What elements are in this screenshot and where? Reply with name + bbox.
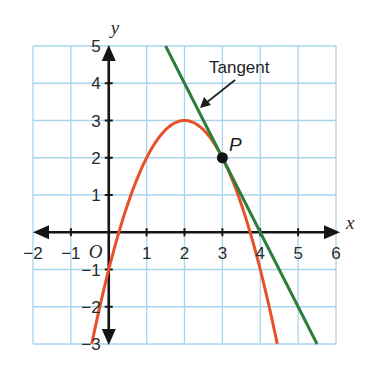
x-tick-label: −1 (61, 244, 80, 263)
y-axis-arrow-up (102, 45, 116, 61)
y-axis-arrow-down (102, 329, 116, 345)
y-tick-label: 2 (91, 149, 100, 168)
chart: −2−1123456−3−2−112345xyO Tangent P (0, 0, 375, 369)
origin-label: O (89, 241, 103, 262)
x-tick-label: 3 (218, 244, 227, 263)
x-tick-label: 1 (142, 244, 151, 263)
x-axis-label: x (345, 212, 355, 233)
x-tick-label: 2 (180, 244, 189, 263)
y-tick-label: −1 (81, 261, 100, 280)
y-tick-label: −3 (81, 335, 100, 354)
y-tick-label: −2 (81, 298, 100, 317)
y-tick-label: 4 (91, 74, 100, 93)
y-tick-label: 3 (91, 112, 100, 131)
x-tick-label: 6 (331, 244, 340, 263)
x-tick-label: −2 (23, 244, 42, 263)
y-tick-label: 5 (91, 37, 100, 56)
annotation-arrow-head (200, 97, 211, 108)
y-tick-label: 1 (91, 186, 100, 205)
grid (33, 46, 336, 344)
x-tick-label: 5 (293, 244, 302, 263)
x-axis-arrow-right (324, 225, 340, 239)
annotation-tangent-label: Tangent (209, 58, 270, 77)
point-p (217, 152, 228, 163)
x-tick-label: 4 (256, 244, 265, 263)
point-p-label: P (229, 134, 242, 155)
labels-group: −2−1123456−3−2−112345xyO (23, 17, 355, 354)
y-axis-label: y (109, 17, 120, 38)
x-axis-arrow-left (33, 225, 49, 239)
